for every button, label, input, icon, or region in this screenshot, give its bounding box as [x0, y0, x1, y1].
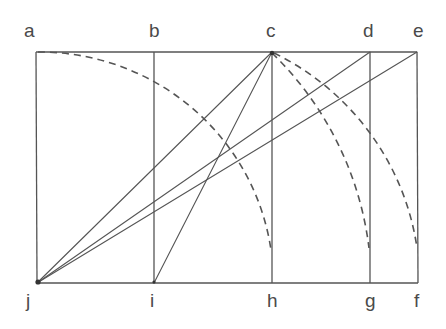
label-i: i — [150, 290, 154, 311]
arc-c-g — [272, 53, 369, 248]
diagonal-j-e — [37, 52, 417, 283]
diagonal-i-c — [154, 52, 272, 283]
label-a: a — [24, 20, 35, 41]
vertex-i — [152, 280, 155, 283]
vertex-c — [270, 51, 274, 55]
geometric-construction-diagram: a b c d e j i h g f — [0, 0, 446, 329]
label-b: b — [149, 20, 160, 41]
line-e-f — [417, 52, 418, 283]
line-a-j — [36, 52, 37, 283]
label-h: h — [267, 290, 278, 311]
label-g: g — [365, 290, 376, 311]
label-f: f — [414, 290, 420, 311]
label-d: d — [363, 20, 374, 41]
vertex-j — [35, 279, 40, 284]
label-j: j — [25, 290, 30, 311]
diagonal-j-d — [37, 52, 370, 283]
point-labels: a b c d e j i h g f — [24, 20, 424, 311]
arc-c-f — [274, 53, 417, 248]
label-e: e — [413, 20, 424, 41]
label-c: c — [266, 20, 276, 41]
diagonal-lines — [37, 52, 417, 283]
